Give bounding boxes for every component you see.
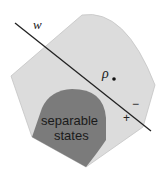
separable-label-line2: states <box>54 128 89 143</box>
rho-point <box>112 77 116 81</box>
entanglement-witness-diagram: w ρ − + separable states <box>0 0 167 180</box>
diagram-svg <box>0 0 167 180</box>
rho-label: ρ <box>102 66 109 82</box>
witness-label: w <box>33 17 42 33</box>
positive-side-label: + <box>123 111 130 125</box>
separable-label-line1: separable <box>41 113 98 128</box>
negative-side-label: − <box>132 97 139 111</box>
